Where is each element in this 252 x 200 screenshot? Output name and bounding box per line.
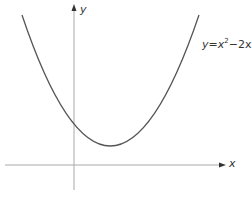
equation-label: y=x2−2x+2 <box>202 37 252 51</box>
y-axis-arrow-icon <box>72 4 77 11</box>
x-axis-arrow-icon <box>219 163 226 168</box>
y-axis-label: y <box>80 3 87 16</box>
equation-suffix: −2x+2 <box>229 38 252 51</box>
x-axis-label: x <box>229 157 236 170</box>
equation-prefix: y=x <box>202 38 224 51</box>
parabola-curve <box>22 15 199 146</box>
plot-area <box>0 0 252 200</box>
chart: y x y=x2−2x+2 <box>0 0 252 200</box>
